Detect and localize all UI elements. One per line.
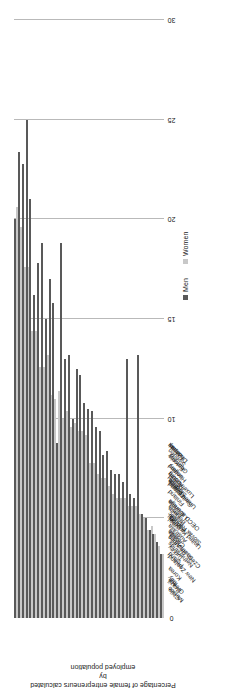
plot-area bbox=[14, 20, 164, 618]
category-labels: MexicoChileGreeceBrazilNew ZealandItalyK… bbox=[164, 20, 230, 618]
value-axis-title: Percentage of female entrepreneurs calcu… bbox=[28, 662, 178, 690]
value-axis: 051015202530 Percentage of female entrep… bbox=[14, 618, 164, 692]
value-axis-title-line2: employed population bbox=[28, 663, 178, 672]
bar-rows bbox=[14, 20, 164, 618]
value-axis-title-line1: Percentage of female entrepreneurs calcu… bbox=[28, 672, 178, 690]
chart-stage: Men Women 051015202530 Percentage of fem… bbox=[0, 0, 234, 692]
